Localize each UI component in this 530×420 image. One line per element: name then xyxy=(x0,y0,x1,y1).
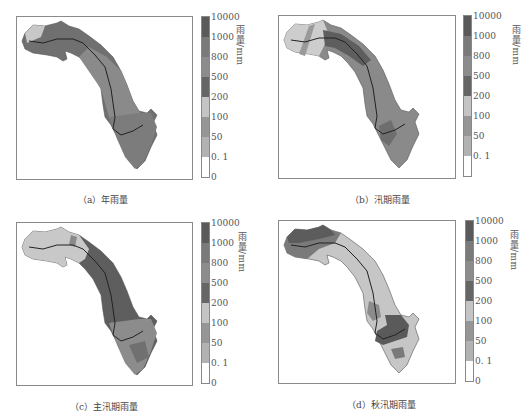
colorbar-a xyxy=(201,16,210,178)
basin-map-b xyxy=(279,16,455,178)
tick-1000: 1000 xyxy=(211,238,234,248)
tick-10000: 10000 xyxy=(473,11,502,21)
tick-10000: 10000 xyxy=(475,216,504,226)
tick-0: 0 xyxy=(211,172,217,182)
tick-500: 500 xyxy=(211,72,228,82)
tick-500: 500 xyxy=(473,71,490,81)
colorbar-d xyxy=(465,220,474,382)
panel-b: 10000 1000 800 500 200 100 50 0. 1 雨量/mm… xyxy=(265,0,530,210)
colorbar-c xyxy=(201,222,210,384)
tick-100: 100 xyxy=(473,111,490,121)
panel-d: 10000 1000 800 500 200 100 50 0. 1 0 雨量/… xyxy=(265,210,530,420)
tick-100: 100 xyxy=(211,112,228,122)
tick-800: 800 xyxy=(473,51,490,61)
tick-1000: 1000 xyxy=(211,32,234,42)
tick-200: 200 xyxy=(211,298,228,308)
tick-0-1: 0. 1 xyxy=(473,151,490,161)
tick-200: 200 xyxy=(211,92,228,102)
colorbar-b xyxy=(463,15,472,177)
tick-1000: 1000 xyxy=(473,31,496,41)
tick-50: 50 xyxy=(211,338,222,348)
tick-1000: 1000 xyxy=(475,236,498,246)
tick-200: 200 xyxy=(473,91,490,101)
tick-200: 200 xyxy=(475,296,492,306)
tick-100: 100 xyxy=(475,316,492,326)
tick-0-1: 0. 1 xyxy=(475,356,492,366)
map-frame-d xyxy=(278,220,456,384)
basin-map-d xyxy=(279,221,455,383)
unit-label: 雨量/mm xyxy=(510,25,523,66)
panel-a: 10000 1000 800 500 200 100 50 0. 1 0 雨量/… xyxy=(0,0,265,210)
tick-10000: 10000 xyxy=(211,12,240,22)
tick-0: 0 xyxy=(475,376,481,386)
tick-500: 500 xyxy=(211,278,228,288)
basin-map-c xyxy=(17,223,192,385)
tick-0: 0 xyxy=(211,378,217,388)
tick-0-1: 0. 1 xyxy=(211,358,228,368)
tick-0-1: 0. 1 xyxy=(211,152,228,162)
tick-500: 500 xyxy=(475,276,492,286)
tick-800: 800 xyxy=(475,256,492,266)
tick-10000: 10000 xyxy=(211,218,240,228)
map-frame-b xyxy=(278,15,456,179)
caption-c: （c）主汛期雨量 xyxy=(70,400,138,413)
basin-map-a xyxy=(17,17,192,179)
tick-800: 800 xyxy=(211,52,228,62)
caption-a: （a）年雨量 xyxy=(78,193,128,206)
tick-50: 50 xyxy=(475,336,486,346)
tick-50: 50 xyxy=(211,132,222,142)
tick-100: 100 xyxy=(211,318,228,328)
map-frame-c xyxy=(16,222,193,386)
unit-label: 雨量/mm xyxy=(236,232,249,273)
unit-label: 雨量/mm xyxy=(234,25,247,66)
map-frame-a xyxy=(16,16,193,180)
unit-label: 雨量/mm xyxy=(508,230,521,271)
panel-c: 10000 1000 800 500 200 100 50 0. 1 0 雨量/… xyxy=(0,210,265,420)
tick-50: 50 xyxy=(473,131,484,141)
caption-d: （d）秋汛期雨量 xyxy=(347,398,416,411)
caption-b: （b）汛期雨量 xyxy=(350,193,410,206)
tick-800: 800 xyxy=(211,258,228,268)
